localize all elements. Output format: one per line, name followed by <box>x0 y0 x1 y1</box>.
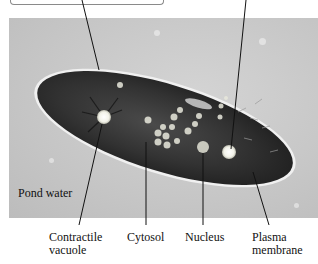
label-line: Cytosol <box>127 231 164 244</box>
nucleus <box>197 141 209 153</box>
contractile-vacuole-left <box>97 110 111 124</box>
label-line: vacuole <box>49 244 102 257</box>
label-plasma-membrane: Plasma membrane <box>252 231 303 257</box>
label-line: membrane <box>252 244 303 257</box>
label-contractile-vacuole: Contractile vacuole <box>49 231 102 257</box>
label-nucleus: Nucleus <box>185 231 224 244</box>
paramecium-cell <box>0 0 318 264</box>
contractile-vacuole-right <box>222 145 236 159</box>
pond-water-label: Pond water <box>18 186 72 201</box>
label-line: Nucleus <box>185 231 224 244</box>
label-cytosol: Cytosol <box>127 231 164 244</box>
